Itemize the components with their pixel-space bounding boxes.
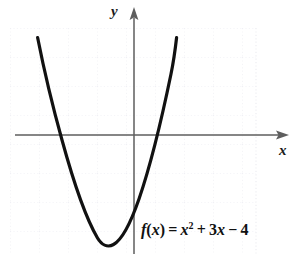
equation-term1-base: x xyxy=(181,221,189,238)
plot-canvas xyxy=(0,0,299,254)
equation-minus-sign: − xyxy=(228,221,237,238)
equation-term1-exponent: 2 xyxy=(189,220,194,231)
graph-figure: y x f(x) = x2 + 3x − 4 xyxy=(0,0,299,254)
equation-argument: x xyxy=(152,221,160,238)
equation-plus-sign: + xyxy=(197,221,206,238)
equation-close-paren: ) xyxy=(160,221,165,238)
x-axis-label: x xyxy=(279,143,287,158)
equation-equals-sign: = xyxy=(168,221,177,238)
y-axis-label: y xyxy=(111,4,118,19)
equation-constant: 4 xyxy=(241,221,249,238)
equation-annotation: f(x) = x2 + 3x − 4 xyxy=(141,222,249,238)
equation-term2-variable: x xyxy=(217,221,225,238)
equation-term2-coefficient: 3 xyxy=(209,221,217,238)
